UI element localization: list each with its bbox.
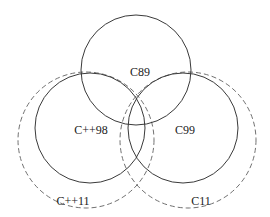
c11-set-circle — [120, 72, 256, 208]
c11-label: C11 — [191, 194, 211, 208]
c99-label: C99 — [175, 123, 195, 137]
cpp98-label: C++98 — [74, 123, 108, 137]
c89-label: C89 — [130, 65, 150, 79]
language-standards-venn-diagram: C89 C++98 C99 C++11 C11 — [0, 0, 270, 217]
cpp11-label: C++11 — [56, 194, 89, 208]
